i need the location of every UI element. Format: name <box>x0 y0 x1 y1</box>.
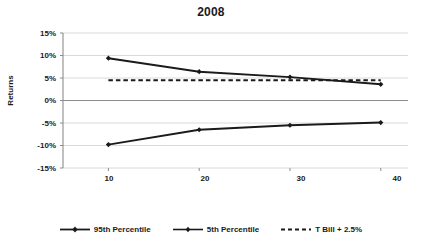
chart-legend: 95th Percentile 5th Percentile T Bill + … <box>0 225 422 234</box>
data-point-marker <box>378 82 383 87</box>
legend-swatch-solid-marker-icon <box>173 225 203 234</box>
data-point-marker <box>106 56 111 61</box>
data-point-marker <box>378 120 383 125</box>
data-point-marker <box>197 69 202 74</box>
axis-lines <box>60 33 381 171</box>
chart-container: 2008 Returns 15% 10% 5% 0% -5% -10% -15%… <box>0 0 422 252</box>
gridlines <box>63 33 408 168</box>
series-line <box>108 123 380 145</box>
legend-item-5th-percentile: 5th Percentile <box>173 225 259 234</box>
legend-swatch-solid-marker-icon <box>60 225 90 234</box>
legend-swatch-dashed-icon <box>281 225 311 234</box>
data-point-marker <box>197 127 202 132</box>
legend-item-t-bill: T Bill + 2.5% <box>281 225 362 234</box>
data-point-marker <box>106 142 111 147</box>
plot-area <box>0 0 422 252</box>
series-layer <box>106 56 384 148</box>
legend-label: 95th Percentile <box>94 225 151 234</box>
legend-label: T Bill + 2.5% <box>315 225 362 234</box>
legend-item-95th-percentile: 95th Percentile <box>60 225 151 234</box>
legend-label: 5th Percentile <box>207 225 259 234</box>
data-point-marker <box>287 75 292 80</box>
